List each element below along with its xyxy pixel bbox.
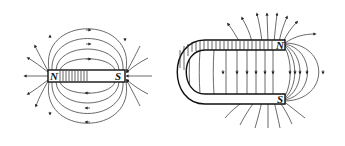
bar-south-label: S (115, 70, 121, 82)
horseshoe-north-label: N (275, 39, 285, 51)
bar-north-label: N (49, 70, 59, 82)
horseshoe-field-lines (189, 14, 323, 128)
horseshoe-south-label: S (277, 93, 283, 105)
horseshoe-magnet: N S (177, 39, 285, 105)
magnetic-field-diagram: N S (0, 0, 345, 146)
bar-magnet: N S (48, 70, 125, 82)
